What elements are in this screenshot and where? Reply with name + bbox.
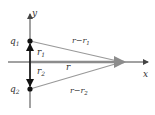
x-axis-label: x — [143, 69, 148, 79]
charge-q1-label: q1 — [10, 36, 20, 47]
vector-r-label: r — [66, 62, 71, 72]
vector-r2-label: r2 — [37, 66, 45, 77]
vector-r1-label: r1 — [37, 47, 45, 58]
vector-diagram: y x q1 q2 r1 r2 r r−r1 r−r2 — [0, 0, 155, 115]
vector-r-minus-r1-label: r−r1 — [72, 36, 90, 46]
y-axis-label: y — [31, 8, 38, 18]
charge-q1-point — [27, 38, 32, 43]
charge-q2-point — [27, 86, 32, 91]
charge-q2-label: q2 — [10, 84, 20, 95]
vector-r-minus-r2-label: r−r2 — [70, 86, 88, 96]
